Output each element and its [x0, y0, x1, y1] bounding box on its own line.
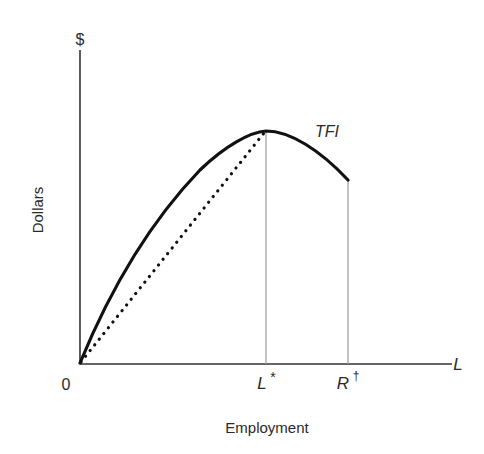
- lstar-marker-label: L *: [257, 369, 276, 393]
- y-axis-symbol: $: [76, 31, 85, 48]
- y-axis-label: Dollars: [29, 187, 46, 234]
- x-axis-label: Employment: [225, 419, 309, 436]
- dotted-ray: [81, 133, 264, 362]
- rdagger-superscript: †: [353, 369, 360, 383]
- rdagger-marker-label: R †: [337, 369, 359, 393]
- tfi-diagram: $ Dollars 0 L Employment TFI L * R †: [0, 0, 484, 454]
- tfi-curve-label: TFI: [315, 123, 340, 140]
- lstar-superscript: *: [270, 369, 276, 385]
- x-axis-symbol: L: [453, 355, 462, 374]
- rdagger-label: R: [337, 374, 349, 393]
- origin-label: 0: [62, 376, 71, 393]
- tfi-curve: [80, 131, 348, 363]
- lstar-label: L: [257, 374, 266, 393]
